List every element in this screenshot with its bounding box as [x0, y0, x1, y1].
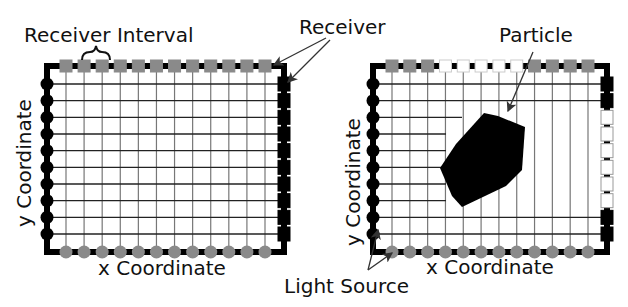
light-source-left [41, 144, 54, 157]
receiver-top-lit [96, 60, 108, 72]
light-source-bottom [240, 246, 253, 259]
light-source-left [367, 111, 380, 124]
receiver-right-lit [278, 127, 290, 141]
receiver-top-lit [150, 60, 162, 72]
receiver-interval-label: Receiver Interval [24, 25, 193, 45]
receiver-top-lit [404, 60, 416, 72]
receiver-top-lit [529, 60, 541, 72]
receiver-top-lit [205, 60, 217, 72]
light-source-left [41, 94, 54, 107]
light-source-label: Light Source [284, 276, 409, 296]
panel-with-particle [367, 60, 614, 259]
receiver-top-lit [132, 60, 144, 72]
light-source-left [41, 128, 54, 141]
light-source-bottom [78, 246, 91, 259]
light-source-left [367, 78, 380, 91]
detector-frame [47, 66, 284, 252]
receiver-top-lit [78, 60, 90, 72]
light-source-left [41, 178, 54, 191]
receiver-top-lit [422, 60, 434, 72]
light-source-left [367, 128, 380, 141]
receiver-right-shadowed [601, 160, 613, 174]
left-y-axis-label: y Coordinate [14, 99, 34, 227]
right-x-axis-label: x Coordinate [426, 257, 554, 277]
receiver-top-lit [223, 60, 235, 72]
receiver-right-shadowed [601, 194, 613, 208]
left-x-axis-label: x Coordinate [98, 258, 226, 278]
receiver-top-lit [169, 60, 181, 72]
receiver-right-lit [601, 210, 613, 224]
receiver-top-shadowed [511, 60, 523, 72]
light-source-bottom [582, 246, 595, 259]
receiver-right-lit [278, 94, 290, 108]
light-source-left [367, 94, 380, 107]
receiver-top-lit [114, 60, 126, 72]
light-source-bottom [60, 246, 73, 259]
receiver-top-lit [582, 60, 594, 72]
light-source-bottom [259, 246, 272, 259]
receiver-right-lit [278, 77, 290, 91]
receiver-right-shadowed [601, 127, 613, 141]
receiver-top-lit [60, 60, 72, 72]
receiver-right-shadowed [601, 110, 613, 124]
light-source-left [41, 161, 54, 174]
receiver-right-lit [278, 110, 290, 124]
receiver-right-lit [278, 144, 290, 158]
receiver-right-lit [278, 210, 290, 224]
light-source-bottom [403, 246, 416, 259]
panel-empty-grid [41, 60, 291, 259]
particle [440, 113, 525, 207]
receiver-right-lit [278, 160, 290, 174]
receiver-top-lit [187, 60, 199, 72]
receiver-interval-brace [82, 46, 110, 60]
receiver-right-lit [278, 177, 290, 191]
receiver-label: Receiver [299, 17, 386, 37]
receiver-top-shadowed [457, 60, 469, 72]
receiver-top-lit [564, 60, 576, 72]
light-source-left [367, 211, 380, 224]
receiver-top-shadowed [475, 60, 487, 72]
light-source-bottom [564, 246, 577, 259]
receiver-right-shadowed [601, 177, 613, 191]
receiver-top-lit [259, 60, 271, 72]
receiver-right-lit [601, 94, 613, 108]
receiver-top-lit [386, 60, 398, 72]
light-source-left [367, 178, 380, 191]
light-source-left [41, 111, 54, 124]
light-source-left [41, 211, 54, 224]
light-source-left [41, 194, 54, 207]
light-source-left [367, 144, 380, 157]
light-source-left [367, 161, 380, 174]
particle-label: Particle [499, 25, 573, 45]
light-source-left [367, 194, 380, 207]
receiver-right-shadowed [601, 144, 613, 158]
receiver-top-lit [546, 60, 558, 72]
receiver-right-lit [601, 77, 613, 91]
receiver-top-shadowed [493, 60, 505, 72]
right-y-axis-label: y Coordinate [343, 118, 363, 246]
receiver-right-lit [601, 227, 613, 241]
receiver-right-lit [278, 194, 290, 208]
receiver-top-lit [241, 60, 253, 72]
receiver-right-lit [278, 227, 290, 241]
light-source-left [41, 78, 54, 91]
light-source-left [41, 228, 54, 241]
receiver-top-shadowed [439, 60, 451, 72]
